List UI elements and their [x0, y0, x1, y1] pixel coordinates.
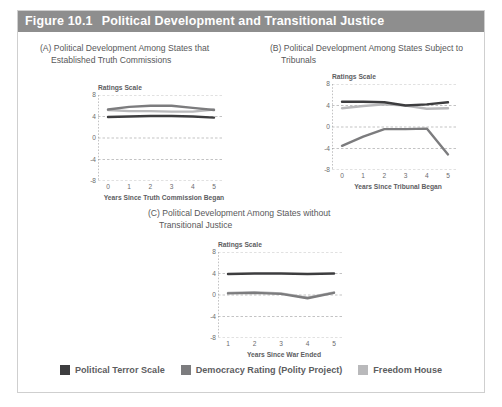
- panel-c-caption-line1: (C) Political Development Among States w…: [148, 208, 330, 218]
- x-tick-label: 5: [443, 173, 454, 179]
- panel-c-x-axis-title: Years Since War Ended: [196, 351, 372, 358]
- panel-b-caption-line2: Tribunals: [270, 55, 488, 67]
- panel-a-caption-line2: Established Truth Commissions: [40, 55, 255, 67]
- y-tick-label: -4: [203, 314, 216, 320]
- panel-b-caption-line1: (B) Political Development Among States S…: [270, 43, 463, 53]
- x-tick-label: 0: [337, 173, 348, 179]
- y-tick-label: -4: [83, 157, 96, 163]
- x-tick-label: 2: [145, 184, 156, 190]
- y-tick-label: 4: [203, 271, 216, 277]
- x-tick-label: 1: [223, 341, 234, 347]
- figure-title-text: Political Development and Transitional J…: [102, 14, 385, 28]
- panel-c-plot-area: 840-4-812345: [218, 252, 344, 338]
- x-tick-label: 3: [400, 173, 411, 179]
- y-tick-label: 8: [83, 92, 96, 98]
- legend-item: Freedom House: [358, 365, 442, 375]
- series-line: [342, 102, 448, 106]
- panel-b-plot-area: 840-4-8012345: [332, 84, 458, 170]
- x-tick-label: 1: [358, 173, 369, 179]
- legend-item: Democracy Rating (Polity Project): [181, 365, 343, 375]
- panel-c-caption: (C) Political Development Among States w…: [148, 208, 398, 231]
- panel-b-y-axis-title: Ratings Scale: [332, 73, 376, 80]
- series-line: [342, 129, 448, 155]
- x-tick-label: 3: [166, 184, 177, 190]
- y-tick-label: 0: [203, 292, 216, 298]
- y-tick-label: -4: [317, 146, 330, 152]
- panel-b-svg: [332, 84, 458, 170]
- panel-c-svg: [218, 252, 344, 338]
- chart-panel-c: Ratings Scale 840-4-812345 Years Since W…: [196, 241, 372, 369]
- x-tick-label: 5: [329, 341, 340, 347]
- x-tick-label: 0: [103, 184, 114, 190]
- panel-c-y-axis-title: Ratings Scale: [218, 241, 262, 248]
- x-tick-label: 3: [276, 341, 287, 347]
- y-tick-label: 4: [317, 103, 330, 109]
- legend-label: Political Terror Scale: [75, 365, 165, 375]
- y-tick-label: 8: [317, 81, 330, 87]
- figure-legend: Political Terror ScaleDemocracy Rating (…: [18, 361, 484, 379]
- x-tick-label: 2: [249, 341, 260, 347]
- legend-label: Freedom House: [373, 365, 442, 375]
- series-line: [228, 293, 334, 298]
- panel-b-x-axis-title: Years Since Tribunal Began: [310, 183, 486, 190]
- y-tick-label: 8: [203, 249, 216, 255]
- x-tick-label: 5: [209, 184, 220, 190]
- series-line: [228, 274, 334, 275]
- y-tick-label: 0: [317, 124, 330, 130]
- panel-a-caption: (A) Political Development Among States t…: [40, 43, 255, 66]
- figure-title-bar: Figure 10.1Political Development and Tra…: [18, 11, 484, 32]
- x-tick-label: 4: [187, 184, 198, 190]
- figure-frame: Figure 10.1Political Development and Tra…: [17, 10, 485, 393]
- panel-a-y-axis-title: Ratings Scale: [98, 84, 142, 91]
- figure-title: Figure 10.1Political Development and Tra…: [25, 14, 384, 28]
- y-tick-label: 4: [83, 114, 96, 120]
- chart-panel-b: Ratings Scale 840-4-8012345 Years Since …: [310, 73, 486, 201]
- legend-item: Political Terror Scale: [60, 365, 165, 375]
- series-line: [108, 106, 214, 110]
- panel-a-caption-line1: (A) Political Development Among States t…: [40, 43, 209, 53]
- panel-c-caption-line2: Transitional Justice: [148, 220, 398, 232]
- panel-a-svg: [98, 95, 224, 181]
- series-line: [108, 110, 214, 112]
- x-tick-label: 2: [379, 173, 390, 179]
- figure-container: Figure 10.1Political Development and Tra…: [0, 0, 502, 407]
- x-tick-label: 4: [302, 341, 313, 347]
- panel-b-caption: (B) Political Development Among States S…: [270, 43, 488, 66]
- figure-number: Figure 10.1: [25, 14, 93, 28]
- panel-a-plot-area: 840-4-8012345: [98, 95, 224, 181]
- series-line: [108, 116, 214, 118]
- y-tick-label: -8: [203, 335, 216, 341]
- legend-swatch-icon: [358, 365, 368, 375]
- legend-swatch-icon: [181, 365, 191, 375]
- x-tick-label: 4: [421, 173, 432, 179]
- y-tick-label: 0: [83, 135, 96, 141]
- y-tick-label: -8: [83, 178, 96, 184]
- legend-label: Democracy Rating (Polity Project): [196, 365, 343, 375]
- legend-swatch-icon: [60, 365, 70, 375]
- y-tick-label: -8: [317, 167, 330, 173]
- x-tick-label: 1: [124, 184, 135, 190]
- chart-panel-a: Ratings Scale 840-4-8012345 Years Since …: [76, 84, 252, 204]
- panel-a-x-axis-title: Years Since Truth Commission Began: [76, 194, 252, 201]
